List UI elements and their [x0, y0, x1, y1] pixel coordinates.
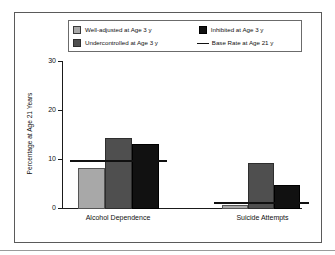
y-tick-mark-10: [58, 159, 62, 160]
y-tick-label-0: 0: [38, 204, 56, 211]
bar-suicide-inhibited: [274, 185, 300, 209]
figure-bottom-rule: [0, 250, 335, 251]
y-tick-label-30: 30: [38, 57, 56, 64]
y-tick-label-20: 20: [38, 106, 56, 113]
x-tick-label-alcohol-dependence: Alcohol Dependence: [68, 213, 168, 222]
bar-alcohol-well-adjusted: [78, 168, 105, 209]
x-tick-label-suicide-attempts: Suicide Attempts: [215, 213, 310, 222]
y-tick-mark-0: [58, 208, 62, 209]
y-tick-mark-20: [58, 110, 62, 111]
base-rate-line-alcohol: [70, 160, 167, 162]
plot-area: Percentage at Age 21 Years 30 20 10 0 Al…: [0, 0, 335, 255]
y-tick-mark-30: [58, 61, 62, 62]
y-axis-title: Percentage at Age 21 Years: [26, 79, 33, 189]
figure-canvas: Well-adjusted at Age 3 y Inhibited at Ag…: [0, 0, 335, 255]
base-rate-line-suicide: [214, 202, 309, 204]
bar-suicide-well-adjusted: [222, 205, 248, 209]
y-tick-label-10: 10: [38, 155, 56, 162]
y-axis-line: [62, 61, 63, 209]
bar-alcohol-inhibited: [132, 144, 159, 209]
bar-alcohol-undercontrolled: [105, 138, 132, 209]
